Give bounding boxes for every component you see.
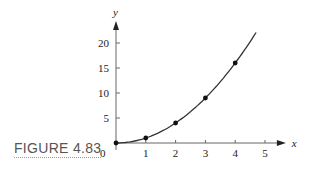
data-point xyxy=(143,136,148,141)
x-tick-label: 3 xyxy=(203,147,209,159)
y-tick-label: 5 xyxy=(104,112,110,124)
x-tick-label: 2 xyxy=(173,147,179,159)
data-point xyxy=(114,141,119,146)
figure-caption: FIGURE 4.83 xyxy=(14,140,101,158)
x-tick-label: 5 xyxy=(262,147,268,159)
x-tick-label: 4 xyxy=(232,147,238,159)
y-tick-label: 15 xyxy=(98,62,110,74)
y-axis-label: y xyxy=(112,6,118,18)
x-tick-label: 1 xyxy=(143,147,149,159)
y-tick-label: 10 xyxy=(98,87,110,99)
curve xyxy=(116,33,256,144)
x-axis-label: x xyxy=(291,137,297,149)
data-point xyxy=(173,121,178,126)
x-axis-arrow-icon xyxy=(277,140,286,146)
y-tick-label: 20 xyxy=(98,37,110,49)
data-point xyxy=(233,61,238,66)
data-point xyxy=(203,96,208,101)
y-axis-arrow-icon xyxy=(113,21,119,30)
